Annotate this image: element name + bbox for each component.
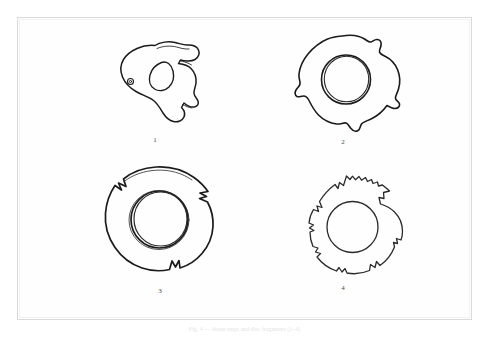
figure-1-drawing xyxy=(108,33,224,138)
plate-caption: Fig. 4 — Stone rings and disc fragments … xyxy=(17,325,472,333)
figure-1: 1 xyxy=(108,33,224,138)
figure-3-drawing xyxy=(90,163,232,295)
figure-2-label: 2 xyxy=(333,138,353,146)
figure-4-drawing xyxy=(288,172,414,290)
figure-3: 3 xyxy=(90,163,232,295)
figure-4: 4 xyxy=(288,172,414,290)
figure-3-label: 3 xyxy=(150,287,170,295)
figure-4-label: 4 xyxy=(333,284,353,292)
figure-2-drawing xyxy=(286,30,414,148)
figure-plate: 1 2 3 4 xyxy=(0,0,494,338)
figure-1-label: 1 xyxy=(145,136,165,144)
figure-2: 2 xyxy=(286,30,414,148)
